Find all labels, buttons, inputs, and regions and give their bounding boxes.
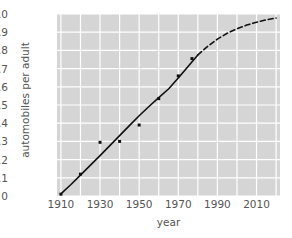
y-tick-label: 0.8 xyxy=(0,45,8,55)
y-tick-label: 0.9 xyxy=(0,27,8,37)
y-tick-label: 0.3 xyxy=(0,136,8,146)
y-tick-label: 0.7 xyxy=(0,64,8,74)
chart-data-layer xyxy=(57,14,280,196)
data-point xyxy=(99,141,102,144)
data-point xyxy=(138,124,141,127)
y-tick-label: 0.5 xyxy=(0,100,8,110)
x-tick-label: 2010 xyxy=(234,199,280,210)
chart-figure: 00.10.20.30.40.50.60.70.80.91.0 19101930… xyxy=(0,0,292,238)
y-tick-label: 0 xyxy=(0,191,8,201)
plot-area xyxy=(57,14,280,196)
y-tick-label: 0.1 xyxy=(0,173,8,183)
series-logistic-extrapolation xyxy=(198,18,276,55)
y-tick-label: 0.4 xyxy=(0,118,8,128)
y-tick-label: 0.6 xyxy=(0,82,8,92)
y-tick-label: 0.2 xyxy=(0,155,8,165)
x-axis-label: year xyxy=(57,216,280,228)
data-point xyxy=(118,140,121,143)
y-axis-label: automobiles per adult xyxy=(19,9,31,191)
y-tick-label: 1.0 xyxy=(0,9,8,19)
